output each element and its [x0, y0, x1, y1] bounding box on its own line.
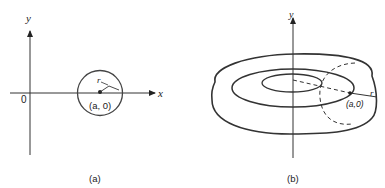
radius-tick-a: [101, 82, 108, 85]
caption-a: (a): [89, 173, 101, 184]
panel-b: y r (a,0) (b): [212, 9, 377, 184]
radius-label-b: r: [370, 88, 374, 98]
figure-canvas: y x 0 r (a, 0) (a) y r (a,0) (b): [0, 0, 385, 188]
panel-a: y x 0 r (a, 0) (a): [10, 12, 163, 184]
radius-label-a: r: [97, 75, 101, 85]
origin-label: 0: [21, 94, 27, 105]
caption-b: (b): [287, 173, 299, 184]
y-label-a: y: [25, 12, 31, 24]
torus-inner-ellipse: [262, 74, 322, 92]
center-label-b: (a,0): [346, 99, 364, 109]
y-label-b: y: [288, 9, 294, 20]
radius-line-a2: [109, 86, 119, 90]
radius-line-a: [100, 86, 109, 92]
x-label-a: x: [157, 87, 163, 99]
center-label-a: (a, 0): [89, 100, 111, 111]
center-point-b: [348, 91, 352, 95]
